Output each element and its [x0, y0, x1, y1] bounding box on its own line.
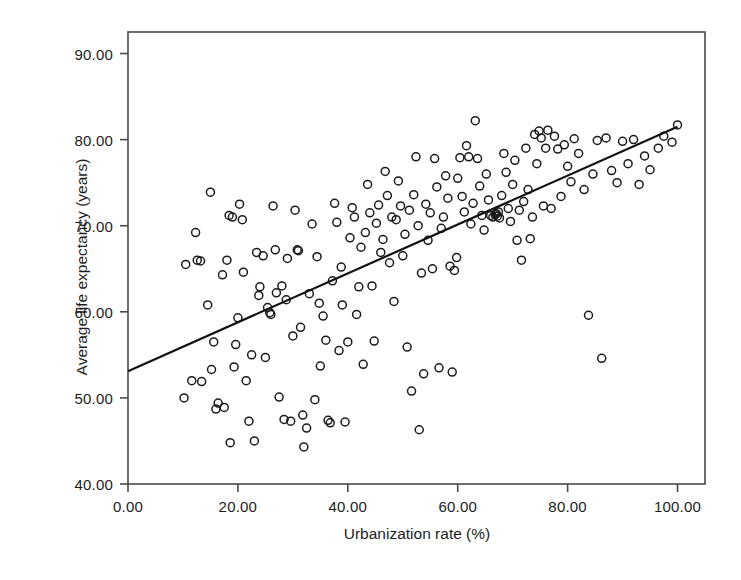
data-point	[570, 135, 578, 143]
data-point	[401, 230, 409, 238]
data-point	[204, 301, 212, 309]
data-point	[515, 206, 523, 214]
data-point	[498, 192, 506, 200]
data-point	[602, 134, 610, 142]
data-point	[361, 229, 369, 237]
scatter-plot-figure: 0.0020.0040.0060.0080.00100.0040.0050.00…	[0, 0, 741, 580]
data-point	[444, 194, 452, 202]
data-point	[560, 141, 568, 149]
data-point	[619, 137, 627, 145]
x-tick-label: 40.00	[329, 498, 368, 515]
data-point	[238, 216, 246, 224]
data-point	[319, 312, 327, 320]
data-point	[375, 201, 383, 209]
data-point	[208, 365, 216, 373]
data-point	[484, 196, 492, 204]
data-point	[511, 156, 519, 164]
data-point	[454, 174, 462, 182]
data-point	[408, 387, 416, 395]
data-point	[206, 188, 214, 196]
data-point	[275, 393, 283, 401]
data-point	[256, 283, 264, 291]
x-axis-title: Urbanization rate (%)	[128, 525, 706, 543]
data-point	[248, 351, 256, 359]
data-point	[346, 234, 354, 242]
data-point	[313, 253, 321, 261]
data-point	[377, 248, 385, 256]
data-point	[397, 202, 405, 210]
data-point	[182, 260, 190, 268]
data-point	[668, 138, 676, 146]
data-point	[613, 179, 621, 187]
data-point	[458, 192, 466, 200]
data-point	[593, 136, 601, 144]
x-tick-label: 80.00	[548, 498, 587, 515]
data-point	[465, 153, 473, 161]
data-point	[271, 246, 279, 254]
data-point	[474, 155, 482, 163]
y-axis-ticks	[120, 54, 128, 484]
data-point	[316, 362, 324, 370]
data-point	[353, 310, 361, 318]
data-point	[180, 394, 188, 402]
data-point	[471, 117, 479, 125]
data-points	[180, 117, 681, 451]
data-point	[337, 263, 345, 271]
data-point	[476, 182, 484, 190]
data-point	[250, 437, 258, 445]
data-point	[635, 180, 643, 188]
data-point	[366, 209, 374, 217]
data-point	[630, 136, 638, 144]
data-point	[303, 424, 311, 432]
data-point	[269, 202, 277, 210]
x-tick-label: 0.00	[113, 498, 143, 515]
data-point	[232, 341, 240, 349]
data-point	[226, 439, 234, 447]
data-point	[403, 343, 411, 351]
data-point	[341, 418, 349, 426]
data-point	[435, 364, 443, 372]
data-point	[547, 205, 555, 213]
y-tick-label: 90.00	[33, 45, 113, 62]
data-point	[242, 377, 250, 385]
data-point	[239, 268, 247, 276]
data-point	[259, 252, 267, 260]
data-point	[544, 126, 552, 134]
data-point	[557, 192, 565, 200]
data-point	[230, 363, 238, 371]
data-point	[210, 338, 218, 346]
data-point	[506, 217, 514, 225]
data-point	[335, 347, 343, 355]
data-point	[261, 353, 269, 361]
data-point	[386, 259, 394, 267]
fit-line	[128, 127, 678, 372]
data-point	[278, 282, 286, 290]
data-point	[223, 256, 231, 264]
data-point	[192, 229, 200, 237]
data-point	[641, 152, 649, 160]
data-point	[405, 206, 413, 214]
data-point	[598, 354, 606, 362]
data-point	[300, 443, 308, 451]
data-point	[390, 297, 398, 305]
data-point	[415, 426, 423, 434]
data-point	[359, 360, 367, 368]
data-point	[188, 377, 196, 385]
data-point	[517, 256, 525, 264]
data-point	[417, 269, 425, 277]
data-point	[414, 222, 422, 230]
plot-frame	[128, 32, 705, 484]
data-point	[589, 170, 597, 178]
data-point	[331, 199, 339, 207]
data-point	[528, 213, 536, 221]
data-point	[539, 202, 547, 210]
plot-canvas	[0, 0, 741, 580]
data-point	[350, 213, 358, 221]
data-point	[245, 417, 253, 425]
data-point	[308, 220, 316, 228]
data-point	[480, 226, 488, 234]
data-point	[289, 332, 297, 340]
data-point	[442, 172, 450, 180]
x-tick-label: 20.00	[219, 498, 258, 515]
data-point	[219, 271, 227, 279]
